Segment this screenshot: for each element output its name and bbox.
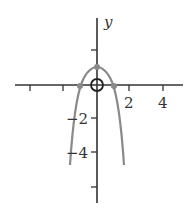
x-tick-label-2: 2 bbox=[124, 94, 134, 112]
chart: y 2 4 −2 −4 bbox=[0, 0, 186, 208]
vertex-point bbox=[94, 64, 100, 70]
y-ticks bbox=[91, 50, 97, 187]
y-tick-label-neg2: −2 bbox=[66, 110, 88, 128]
y-axis-label: y bbox=[103, 13, 113, 31]
x-tick-label-4: 4 bbox=[158, 94, 168, 112]
right-intercept-point bbox=[111, 83, 117, 89]
y-tick-label-neg4: −4 bbox=[66, 144, 88, 162]
left-intercept-point bbox=[77, 83, 83, 89]
